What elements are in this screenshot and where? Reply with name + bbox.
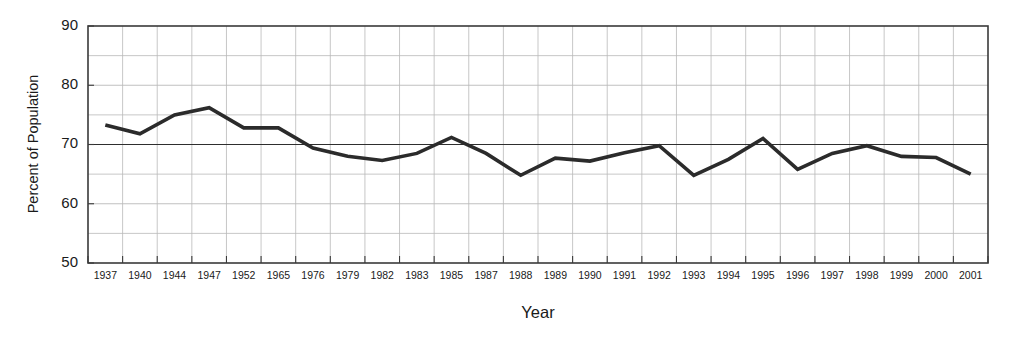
x-tick-label: 1985 <box>440 269 464 281</box>
x-tick-label: 1965 <box>267 269 291 281</box>
x-axis-tick-labels: 1937194019441947195219651976197919821983… <box>94 269 983 281</box>
y-axis-tick-labels: 5060708090 <box>61 16 94 270</box>
x-tick-label: 1979 <box>336 269 360 281</box>
x-tick-label: 1988 <box>509 269 533 281</box>
x-tick-label: 1992 <box>647 269 671 281</box>
x-tick-label: 1991 <box>613 269 637 281</box>
x-tick-label: 1994 <box>717 269 741 281</box>
x-tick-label: 1982 <box>371 269 395 281</box>
x-tick-label: 1976 <box>301 269 325 281</box>
x-axis-ticks <box>88 256 988 263</box>
line-chart: 5060708090 19371940194419471952196519761… <box>0 0 1021 344</box>
y-tick-label: 90 <box>61 16 78 33</box>
y-tick-label: 50 <box>61 253 78 270</box>
x-tick-label: 1987 <box>474 269 498 281</box>
x-axis-title: Year <box>521 303 555 321</box>
x-tick-label: 1996 <box>786 269 810 281</box>
x-tick-label: 1993 <box>682 269 706 281</box>
x-tick-label: 1952 <box>232 269 256 281</box>
x-tick-label: 2001 <box>959 269 983 281</box>
x-tick-label: 1999 <box>890 269 914 281</box>
y-axis-title: Percent of Population <box>25 75 41 214</box>
y-tick-label: 60 <box>61 194 78 211</box>
chart-container: 5060708090 19371940194419471952196519761… <box>0 0 1021 344</box>
x-tick-label: 1995 <box>751 269 775 281</box>
y-tick-label: 70 <box>61 134 78 151</box>
x-tick-label: 1944 <box>163 269 187 281</box>
x-tick-label: 1940 <box>128 269 152 281</box>
x-tick-label: 1998 <box>855 269 879 281</box>
x-tick-label: 1947 <box>197 269 221 281</box>
x-tick-label: 1937 <box>94 269 118 281</box>
x-tick-label: 1990 <box>578 269 602 281</box>
x-tick-label: 1989 <box>544 269 568 281</box>
y-tick-label: 80 <box>61 75 78 92</box>
x-tick-label: 1983 <box>405 269 429 281</box>
x-tick-label: 1997 <box>821 269 845 281</box>
x-tick-label: 2000 <box>924 269 948 281</box>
